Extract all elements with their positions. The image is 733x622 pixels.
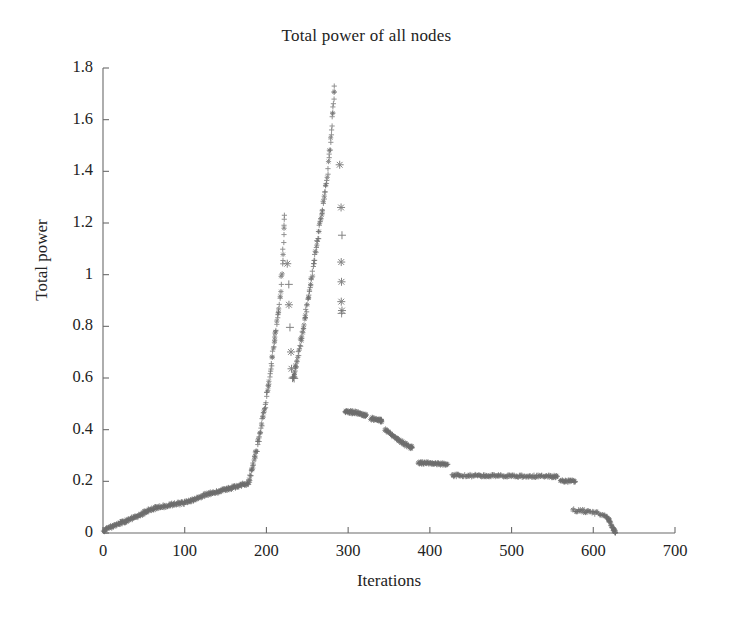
x-tick-label-4: 400 [390,541,470,561]
plus-marker [257,434,262,439]
asterisk-marker [328,135,333,140]
asterisk-marker [322,194,327,199]
y-tick-label-6: 1.2 [27,212,93,232]
asterisk-marker [247,478,252,483]
asterisk-marker [554,473,559,478]
y-tick-label-9: 1.8 [27,57,93,77]
x-tick-label-6: 600 [553,541,633,561]
asterisk-marker [308,282,313,287]
x-tick-label-5: 500 [472,541,552,561]
plus-marker [315,239,320,244]
asterisk-marker [325,175,330,180]
asterisk-marker [301,322,306,327]
asterisk-marker [285,301,293,309]
asterisk-marker [265,388,270,393]
asterisk-marker [270,355,275,360]
asterisk-marker [287,348,295,356]
asterisk-marker [337,258,345,266]
y-tick-label-3: 0.6 [27,367,93,387]
plus-marker [281,240,286,245]
asterisk-marker [316,229,321,234]
plus-marker [328,140,333,145]
asterisk-marker [318,216,323,221]
plus-marker [331,101,336,106]
chart-figure: Total power of all nodes Total power Ite… [0,0,733,622]
plus-marker [281,232,286,237]
asterisk-marker [326,159,331,164]
asterisk-marker [612,527,617,532]
plus-marker [280,247,285,252]
asterisk-marker [310,274,315,279]
asterisk-marker [280,271,285,276]
y-tick-label-4: 0.8 [27,315,93,335]
plus-marker [330,104,335,109]
plus-marker [280,258,285,263]
plus-marker [329,127,334,132]
asterisk-marker [300,330,305,335]
asterisk-marker [299,334,304,339]
plus-marker [312,258,317,263]
y-tick-label-0: 0 [27,522,93,542]
plot-area [0,0,733,622]
y-tick-label-2: 0.4 [27,419,93,439]
plus-marker [322,189,327,194]
plus-marker [332,83,337,88]
asterisk-marker [314,243,319,248]
asterisk-marker [305,302,310,307]
plus-marker [303,307,308,312]
plus-marker [297,343,302,348]
y-tick-label-8: 1.6 [27,109,93,129]
plus-marker [279,282,284,287]
x-tick-label-0: 0 [63,541,143,561]
asterisk-marker [336,161,344,169]
asterisk-marker [313,249,318,254]
plus-marker [338,231,346,239]
asterisk-marker [271,345,276,350]
y-tick-label-7: 1.4 [27,160,93,180]
data-markers [101,83,618,535]
x-tick-label-3: 300 [308,541,388,561]
plus-marker [331,96,336,101]
plus-marker [282,213,287,218]
plus-marker [286,323,294,331]
asterisk-marker [338,278,346,286]
x-tick-label-2: 200 [226,541,306,561]
x-tick-label-1: 100 [145,541,225,561]
asterisk-marker [276,306,281,311]
asterisk-marker [250,465,255,470]
asterisk-marker [280,252,285,257]
plus-marker [285,280,293,288]
asterisk-marker [278,289,283,294]
asterisk-marker [278,294,283,299]
y-tick-label-1: 0.2 [27,470,93,490]
asterisk-marker [337,203,345,211]
x-tick-label-7: 700 [635,541,715,561]
plus-marker [328,147,333,152]
asterisk-marker [274,318,279,323]
asterisk-marker [266,379,271,384]
asterisk-marker [337,298,345,306]
plus-marker [258,426,263,431]
asterisk-marker [330,111,335,116]
plus-marker [277,302,282,307]
plus-marker [325,166,330,171]
plus-marker [262,406,267,411]
axis-ticks [103,68,675,533]
plus-marker [310,269,315,274]
asterisk-marker [283,260,291,268]
y-tick-label-5: 1 [27,264,93,284]
plus-marker [330,123,335,128]
axis-lines [103,68,675,533]
asterisk-marker [294,359,299,364]
